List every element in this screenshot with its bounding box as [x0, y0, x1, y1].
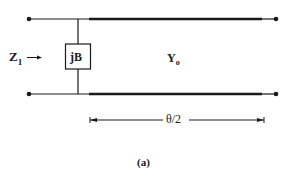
top-conductor: [27, 17, 279, 22]
line-admittance-label: Yo: [167, 52, 180, 67]
figure-caption: (a): [137, 157, 150, 168]
input-impedance-label: Z1: [9, 50, 22, 67]
top-right-terminal: [274, 17, 279, 22]
y-subscript: o: [176, 58, 180, 67]
input-arrow-icon: [27, 56, 42, 60]
bottom-right-terminal: [274, 92, 279, 97]
y-symbol: Y: [167, 51, 176, 65]
circuit-diagram: [0, 0, 292, 181]
z-symbol: Z: [9, 49, 18, 64]
bottom-conductor: [27, 92, 279, 97]
length-label: θ/2: [166, 113, 181, 125]
z-subscript: 1: [18, 57, 23, 67]
shunt-element-label: jB: [70, 51, 82, 63]
